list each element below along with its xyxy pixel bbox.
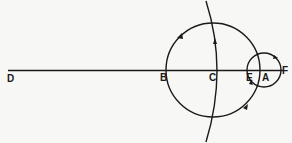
label-e: E xyxy=(246,72,253,83)
geometry-diagram: D B C E A F xyxy=(0,0,292,143)
label-d: D xyxy=(7,73,14,84)
label-a: A xyxy=(262,72,269,83)
label-f: F xyxy=(282,65,288,76)
arrow-arc xyxy=(213,38,217,44)
label-c: C xyxy=(209,72,216,83)
label-b: B xyxy=(160,72,167,83)
arrow-large-circle-top xyxy=(177,33,183,39)
